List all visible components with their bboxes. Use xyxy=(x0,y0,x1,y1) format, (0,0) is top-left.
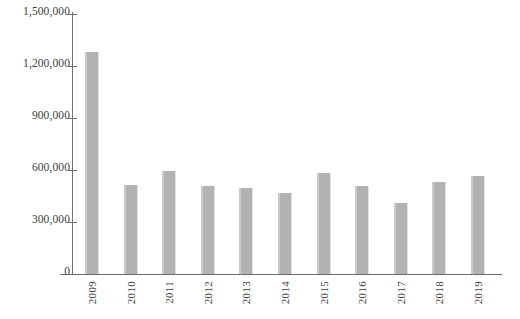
bar xyxy=(278,193,292,274)
x-axis-tick-label: 2014 xyxy=(279,281,293,304)
bar xyxy=(162,171,176,274)
x-axis-tick-label: 2018 xyxy=(433,281,447,304)
x-axis-tick-label: 2017 xyxy=(395,281,409,304)
y-axis-tick-mark xyxy=(67,222,77,223)
x-axis-tick-label: 2016 xyxy=(356,281,370,304)
y-axis-tick-label: 600,000 xyxy=(32,161,70,173)
bar xyxy=(471,176,485,274)
y-axis-tick-mark xyxy=(67,66,77,67)
y-axis-tick-mark xyxy=(67,170,77,171)
x-axis-tick-label: 2011 xyxy=(163,281,177,304)
y-axis-tick-mark xyxy=(67,14,77,15)
x-axis-tick-label: 2013 xyxy=(240,281,254,304)
bar xyxy=(432,182,446,274)
y-axis-tick-label: 1,200,000 xyxy=(23,57,70,69)
y-axis-tick-label: 0 xyxy=(64,265,70,277)
x-axis-tick-label: 2019 xyxy=(472,281,486,304)
x-axis-tick-label: 2009 xyxy=(86,281,100,304)
bar xyxy=(124,185,138,274)
bar xyxy=(201,186,215,274)
x-axis-tick-label: 2010 xyxy=(125,281,139,304)
y-axis-tick-label: 900,000 xyxy=(32,109,70,121)
bar xyxy=(355,186,369,274)
y-axis-tick-mark xyxy=(67,274,77,275)
bar xyxy=(85,52,99,274)
y-axis-tick-mark xyxy=(67,118,77,119)
bar xyxy=(317,173,331,274)
y-axis-tick-label: 1,500,000 xyxy=(23,5,70,17)
bar xyxy=(394,203,408,274)
bar xyxy=(239,188,253,274)
x-axis-tick-label: 2012 xyxy=(202,281,216,304)
x-axis-tick-label: 2015 xyxy=(318,281,332,304)
plot-area: 0300,000600,000900,0001,200,0001,500,000… xyxy=(0,0,520,319)
y-axis-tick-label: 300,000 xyxy=(32,213,70,225)
bar-chart: 0300,000600,000900,0001,200,0001,500,000… xyxy=(0,0,520,319)
